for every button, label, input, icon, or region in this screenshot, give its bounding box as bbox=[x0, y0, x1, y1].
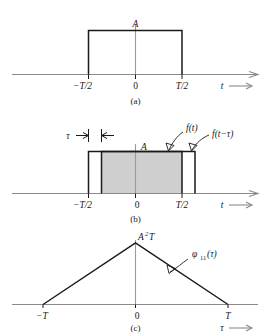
panel-a-tick-label-t-half: T/2 bbox=[176, 81, 189, 91]
panel-b-tick-label-neg-t-half: −T/2 bbox=[73, 200, 92, 210]
panel-b-label-ft-shifted: f(t−τ) bbox=[212, 129, 233, 140]
panel-c-tick-label-neg-t: −T bbox=[36, 311, 48, 321]
panel-c-curve-symbol: φ bbox=[192, 249, 197, 259]
panel-b-tick-label-zero: 0 bbox=[135, 200, 140, 210]
panel-b-label-ft: f(t) bbox=[186, 123, 198, 134]
panel-a-tick-label-zero: 0 bbox=[133, 81, 138, 91]
panel-b-leader-ft bbox=[169, 132, 183, 150]
panel-b-caption: (b) bbox=[130, 214, 141, 224]
panel-c-tick-label-t: T bbox=[225, 311, 231, 321]
panel-c-caption: (c) bbox=[131, 323, 141, 333]
panel-b-x-axis-label: t bbox=[221, 200, 224, 210]
panel-b: τ A f(t) f(t−τ) −T/2 0 T/2 t (b) bbox=[12, 123, 258, 224]
panel-a-x-axis-label: t bbox=[221, 81, 224, 91]
figure-root: A −T/2 0 T/2 t (a) bbox=[0, 0, 272, 335]
panel-c-peak-suffix: T bbox=[149, 232, 155, 242]
panel-c: A 2 T φ 11 (τ) −T 0 T τ (c) bbox=[12, 230, 258, 333]
panel-b-tick-label-t-half: T/2 bbox=[176, 200, 189, 210]
panel-c-peak-base: A bbox=[137, 232, 144, 242]
panel-c-leader-arrowhead bbox=[167, 265, 176, 274]
panel-c-tick-label-zero: 0 bbox=[135, 311, 140, 321]
panel-c-curve-subscript: 11 bbox=[200, 254, 206, 261]
panel-c-curve-label: φ 11 (τ) bbox=[192, 249, 217, 261]
panel-a-tick-label-neg-t-half: −T/2 bbox=[73, 81, 92, 91]
panel-c-leader bbox=[170, 259, 188, 272]
panel-c-x-axis-label: τ bbox=[220, 323, 224, 333]
panel-a-amplitude-label: A bbox=[132, 19, 139, 29]
panel-a-caption: (a) bbox=[131, 96, 141, 106]
panel-b-overlap-shading bbox=[101, 152, 182, 193]
panel-c-peak-label: A 2 T bbox=[137, 230, 155, 242]
figure-svg: A −T/2 0 T/2 t (a) bbox=[0, 0, 272, 335]
panel-c-curve-argument: (τ) bbox=[207, 249, 217, 260]
panel-a: A −T/2 0 T/2 t (a) bbox=[12, 19, 258, 106]
panel-b-tau-label: τ bbox=[66, 131, 70, 141]
panel-b-amplitude-label: A bbox=[140, 142, 147, 152]
